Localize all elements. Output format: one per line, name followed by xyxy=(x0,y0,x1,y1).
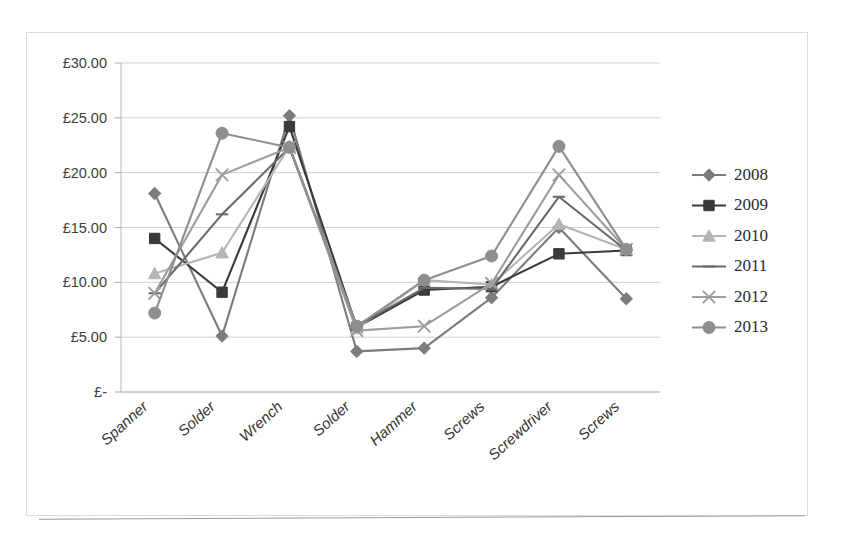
x-tick-label-wrench-2: Wrench xyxy=(236,398,286,445)
data-point-2010-Screwdriver xyxy=(553,218,565,229)
x-tick-label-solder-1: Solder xyxy=(174,397,218,439)
line-chart: £30.00£25.00£20.00£15.00£10.00£5.00£- Sp… xyxy=(0,0,847,557)
x-tick-label-screws-7: Screws xyxy=(574,397,622,443)
data-point-2013-Screws xyxy=(620,243,632,255)
legend-item-2008[interactable]: 2008 xyxy=(692,165,768,184)
x-tick-labels: SpannerSolderWrenchSolderHammerScrewsScr… xyxy=(97,397,623,463)
data-point-2013-Screws xyxy=(486,250,498,262)
legend-label-2009: 2009 xyxy=(734,195,768,214)
data-point-2013-Spanner xyxy=(149,307,161,319)
legend-marker-2013 xyxy=(703,322,715,334)
y-tick-label: £15.00 xyxy=(63,220,107,236)
gridlines xyxy=(121,63,660,392)
x-tick-label-spanner-0: Spanner xyxy=(97,397,151,448)
legend-marker-2008 xyxy=(703,169,715,181)
chart-legend: 200820092010201120122013 xyxy=(692,165,768,337)
data-point-2008-Spanner xyxy=(148,187,160,199)
data-point-2012-Solder xyxy=(216,169,228,181)
y-tick-marks xyxy=(115,63,121,392)
legend-item-2011[interactable]: 2011 xyxy=(692,256,767,275)
data-point-2013-Wrench xyxy=(283,141,295,153)
x-tick-label-screwdriver-6: Screwdriver xyxy=(485,397,556,463)
y-tick-labels: £30.00£25.00£20.00£15.00£10.00£5.00£- xyxy=(63,55,108,400)
y-tick-label: £30.00 xyxy=(63,55,107,71)
data-point-2008-Solder xyxy=(216,330,228,342)
data-point-2013-Screwdriver xyxy=(553,140,565,152)
series-layer xyxy=(148,109,632,357)
y-tick-label: £- xyxy=(94,384,107,400)
legend-label-2008: 2008 xyxy=(734,165,768,184)
legend-item-2012[interactable]: 2012 xyxy=(692,287,768,306)
data-point-2010-Solder xyxy=(216,247,228,258)
legend-label-2011: 2011 xyxy=(734,256,767,275)
data-point-2013-Solder xyxy=(351,320,363,332)
legend-item-2013[interactable]: 2013 xyxy=(692,317,768,336)
data-point-2008-Solder xyxy=(351,345,363,357)
x-tick-label-hammer-4: Hammer xyxy=(366,397,421,449)
y-tick-label: £25.00 xyxy=(63,110,107,126)
data-point-2013-Hammer xyxy=(418,274,430,286)
legend-label-2012: 2012 xyxy=(734,287,768,306)
x-tick-label-screws-5: Screws xyxy=(440,397,488,443)
series-2010 xyxy=(148,140,632,333)
x-tick-label-solder-3: Solder xyxy=(309,397,353,439)
y-tick-label: £5.00 xyxy=(71,329,107,345)
data-point-2009-Wrench xyxy=(284,121,294,131)
data-point-2009-Screwdriver xyxy=(554,249,564,259)
data-point-2009-Solder xyxy=(217,287,227,297)
chart-canvas: £30.00£25.00£20.00£15.00£10.00£5.00£- Sp… xyxy=(0,0,847,557)
data-point-2012-Screwdriver xyxy=(553,169,565,181)
y-tick-label: £10.00 xyxy=(63,274,107,290)
legend-label-2013: 2013 xyxy=(734,317,768,336)
data-point-2008-Wrench xyxy=(283,109,295,121)
legend-item-2010[interactable]: 2010 xyxy=(692,226,768,245)
data-point-2013-Solder xyxy=(216,127,228,139)
legend-marker-2009 xyxy=(704,200,714,210)
legend-label-2010: 2010 xyxy=(734,226,768,245)
y-tick-label: £20.00 xyxy=(63,165,107,181)
legend-item-2009[interactable]: 2009 xyxy=(692,195,768,214)
data-point-2009-Spanner xyxy=(149,233,159,243)
